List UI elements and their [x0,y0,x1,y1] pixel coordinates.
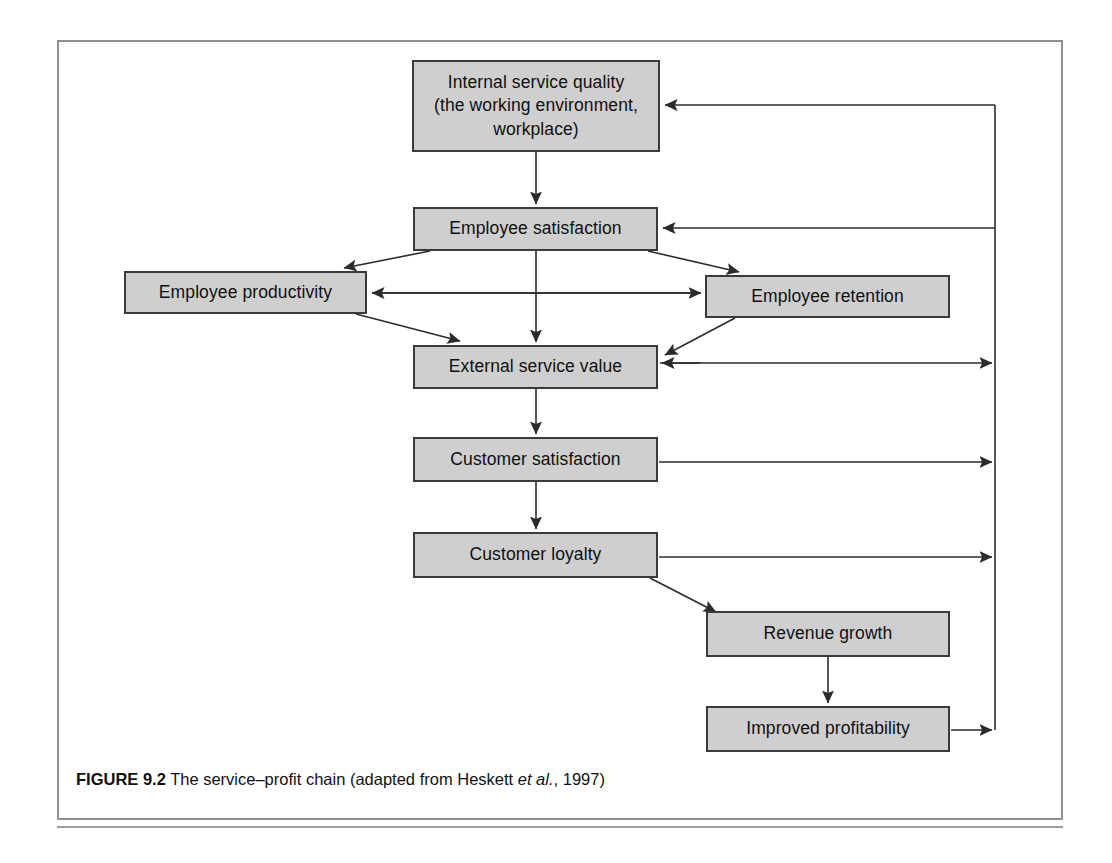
caption-divider-rule [57,826,1063,828]
node-improved-profitability[interactable]: Improved profitability [706,706,950,752]
figure-caption-italic: et al. [518,770,554,788]
node-label-external-service-value: External service value [449,355,622,378]
node-label-employee-productivity: Employee productivity [159,281,332,304]
figure-caption-text-1: The service–profit chain (adapted from H… [170,770,518,788]
figure-caption-text-2: , 1997) [554,770,605,788]
edge-ep-to-esv [356,314,460,341]
node-revenue-growth[interactable]: Revenue growth [706,611,950,657]
node-customer-loyalty[interactable]: Customer loyalty [413,532,658,578]
node-label-internal-service-quality: Internal service quality (the working en… [434,71,638,140]
edge-es-to-ep [344,251,430,268]
node-label-employee-satisfaction: Employee satisfaction [449,217,621,240]
node-employee-retention[interactable]: Employee retention [705,275,950,318]
edge-er-to-esv [665,318,735,355]
figure-caption: FIGURE 9.2 The service–profit chain (ada… [76,770,976,789]
figure-caption-number: FIGURE 9.2 [76,770,166,788]
node-employee-satisfaction[interactable]: Employee satisfaction [413,207,658,251]
node-label-customer-satisfaction: Customer satisfaction [450,448,620,471]
node-customer-satisfaction[interactable]: Customer satisfaction [413,437,658,482]
node-internal-service-quality[interactable]: Internal service quality (the working en… [412,60,660,152]
node-label-employee-retention: Employee retention [751,285,904,308]
edge-es-to-er [648,251,739,272]
edge-cl-to-rg [650,578,716,612]
node-external-service-value[interactable]: External service value [413,345,658,389]
node-label-improved-profitability: Improved profitability [746,717,910,740]
node-label-revenue-growth: Revenue growth [764,622,893,645]
node-label-customer-loyalty: Customer loyalty [470,543,602,566]
figure-page: Internal service quality (the working en… [0,0,1112,863]
node-employee-productivity[interactable]: Employee productivity [124,271,367,314]
